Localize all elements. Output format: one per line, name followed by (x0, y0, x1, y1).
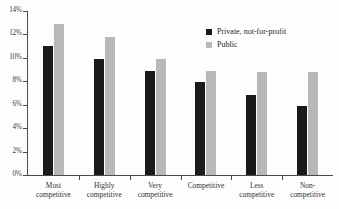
bar-private[interactable] (43, 46, 53, 175)
y-axis-tick-mark (23, 58, 27, 59)
bar-private[interactable] (195, 82, 205, 175)
y-axis-tick-label: 0% (13, 171, 22, 178)
y-axis-tick-label: 14% (9, 7, 22, 14)
y-axis-tick-label: 2% (13, 148, 22, 155)
x-axis-tick-mark (231, 176, 232, 180)
legend-item-private[interactable]: Private, not-for-profit (206, 27, 336, 37)
y-axis-tick-label: 10% (9, 54, 22, 61)
y-axis-tick-label: 4% (13, 125, 22, 132)
x-axis-category-label: Verycompetitive (130, 181, 181, 200)
bar-private[interactable] (145, 71, 155, 175)
chart-legend: Private, not-for-profit Public (206, 27, 336, 53)
bar-public[interactable] (105, 37, 115, 175)
bar-public[interactable] (206, 71, 216, 175)
x-axis-category-label: Lesscompetitive (231, 181, 282, 200)
bar-private[interactable] (297, 106, 307, 175)
x-axis-category-label: Non-competitive (282, 181, 333, 200)
bar-private[interactable] (246, 95, 256, 175)
y-axis: 0%2%4%6%8%10%12%14% (0, 0, 26, 185)
bar-public[interactable] (257, 72, 267, 175)
y-axis-tick-mark (23, 128, 27, 129)
y-axis-tick-label: 6% (13, 101, 22, 108)
x-axis-category-label: Mostcompetitive (28, 181, 79, 200)
bar-private[interactable] (94, 59, 104, 175)
bar-group (79, 11, 130, 175)
bar-group (130, 11, 181, 175)
y-axis-tick-label: 8% (13, 78, 22, 85)
x-axis-tick-mark (181, 176, 182, 180)
y-axis-tick-mark (23, 175, 27, 176)
y-axis-tick-label: 12% (9, 31, 22, 38)
legend-item-public[interactable]: Public (206, 40, 336, 50)
x-axis-category-label: Competitive (181, 181, 232, 190)
x-axis-tick-mark (130, 176, 131, 180)
x-axis-tick-mark (282, 176, 283, 180)
x-axis: MostcompetitiveHighlycompetitiveVerycomp… (28, 181, 333, 209)
x-axis-category-label: Highlycompetitive (79, 181, 130, 200)
bar-public[interactable] (156, 59, 166, 175)
x-axis-tick-mark (79, 176, 80, 180)
y-axis-tick-mark (23, 81, 27, 82)
y-axis-tick-mark (23, 11, 27, 12)
y-axis-tick-mark (23, 34, 27, 35)
legend-swatch-icon-public (206, 42, 212, 48)
legend-label-private: Private, not-for-profit (217, 28, 286, 36)
bar-public[interactable] (308, 72, 318, 175)
legend-swatch-icon-private (206, 29, 212, 35)
y-axis-tick-mark (23, 152, 27, 153)
y-axis-tick-mark (23, 105, 27, 106)
legend-label-public: Public (217, 41, 237, 49)
bar-public[interactable] (54, 24, 64, 175)
bar-group (28, 11, 79, 175)
bar-chart: 0%2%4%6%8%10%12%14% MostcompetitiveHighl… (0, 0, 339, 209)
